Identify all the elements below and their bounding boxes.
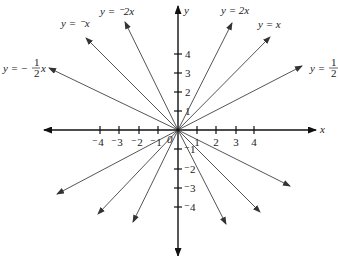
label-y-half-x: y = 1 2: [309, 56, 338, 79]
x-tick-label: ⁻2: [131, 136, 143, 148]
x-tick-label: ⁻3: [111, 136, 123, 148]
x-tick-label: ⁻1: [150, 136, 162, 148]
line-y-neg-half-x-upper: [49, 68, 178, 130]
line-y-neg-2x-upper: [125, 22, 178, 130]
label-y-neg-2x: y = ⁻2x: [99, 5, 134, 17]
x-tick-label: 3: [233, 136, 239, 148]
y-tick-label: ⁻2: [184, 163, 196, 175]
y-axis-label: y: [183, 4, 189, 16]
svg-text:y = −: y = −: [2, 62, 28, 74]
x-tick-label: ⁻4: [92, 136, 104, 148]
svg-text:x: x: [40, 62, 46, 74]
x-axis-label: x: [319, 123, 325, 135]
y-tick-label: 4: [185, 48, 191, 60]
label-y-neg-half-x: y = − 1 2 x: [2, 56, 46, 79]
label-y-x: y = x: [257, 18, 281, 30]
y-tick-label: ⁻1: [184, 143, 196, 155]
svg-text:2: 2: [331, 67, 337, 79]
y-tick-label: ⁻3: [184, 182, 196, 194]
origin-label: 0: [167, 133, 173, 145]
graph-of-lines-through-origin: ⁻4 ⁻3 ⁻2 ⁻1 1 2 3 4 1 2 3 4 ⁻1 ⁻2 ⁻3 ⁻4 …: [0, 0, 338, 256]
x-tick-labels: ⁻4 ⁻3 ⁻2 ⁻1 1 2 3 4: [92, 136, 257, 148]
line-y-x-upper: [178, 37, 270, 130]
y-tick-label: ⁻4: [184, 201, 196, 213]
label-y-neg-x: y = ⁻x: [60, 17, 90, 29]
x-tick-label: 2: [213, 136, 219, 148]
y-tick-label: 3: [185, 67, 191, 79]
svg-text:2: 2: [34, 67, 40, 79]
y-tick-label: 1: [185, 105, 191, 117]
x-tick-label: 4: [251, 136, 257, 148]
y-tick-label: 2: [185, 86, 191, 98]
label-y-2x: y = 2x: [220, 4, 249, 16]
lines-group: [49, 22, 302, 224]
line-y-neg-x-upper: [86, 38, 178, 130]
svg-text:y =: y =: [309, 62, 325, 74]
line-y-half-x-upper: [178, 66, 302, 130]
